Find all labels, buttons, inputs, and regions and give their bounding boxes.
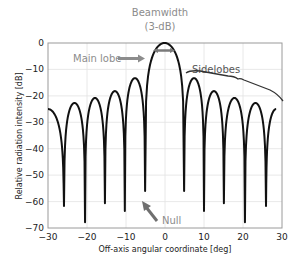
y-tick: −20	[25, 91, 44, 101]
radiation-pattern-chart: 0 −10 −20 −30 −40 −50 −60 −70 −30 −20 −1…	[0, 0, 301, 267]
beamwidth-sublabel: (3-dB)	[145, 21, 176, 32]
null-label: Null	[162, 215, 181, 226]
x-tick: −10	[117, 232, 136, 242]
main-lobe-label: Main lobe	[73, 53, 121, 64]
main-lobe-arrow	[118, 55, 145, 63]
y-tick: −40	[25, 144, 44, 154]
y-axis-label: Relative radiation intensity [dB]	[15, 72, 24, 199]
x-tick: 20	[237, 232, 249, 242]
y-axis-ticks: 0 −10 −20 −30 −40 −50 −60 −70	[25, 38, 44, 233]
x-axis-label: Off-axis angular coordinate [deg]	[99, 245, 232, 254]
x-tick: −20	[78, 232, 97, 242]
y-tick: 0	[38, 38, 44, 48]
y-tick: −50	[25, 170, 44, 180]
null-arrow	[142, 201, 157, 221]
x-axis-ticks: −30 −20 −10 0 10 20 30	[39, 232, 288, 242]
x-tick: 10	[198, 232, 210, 242]
beamwidth-label: Beamwidth	[132, 7, 188, 18]
radiation-pattern-curve	[48, 43, 276, 222]
y-tick: −30	[25, 117, 44, 127]
y-tick: −60	[25, 197, 44, 207]
x-tick: 30	[276, 232, 288, 242]
x-tick: −30	[39, 232, 58, 242]
y-tick: −10	[25, 64, 44, 74]
x-tick: 0	[162, 232, 168, 242]
